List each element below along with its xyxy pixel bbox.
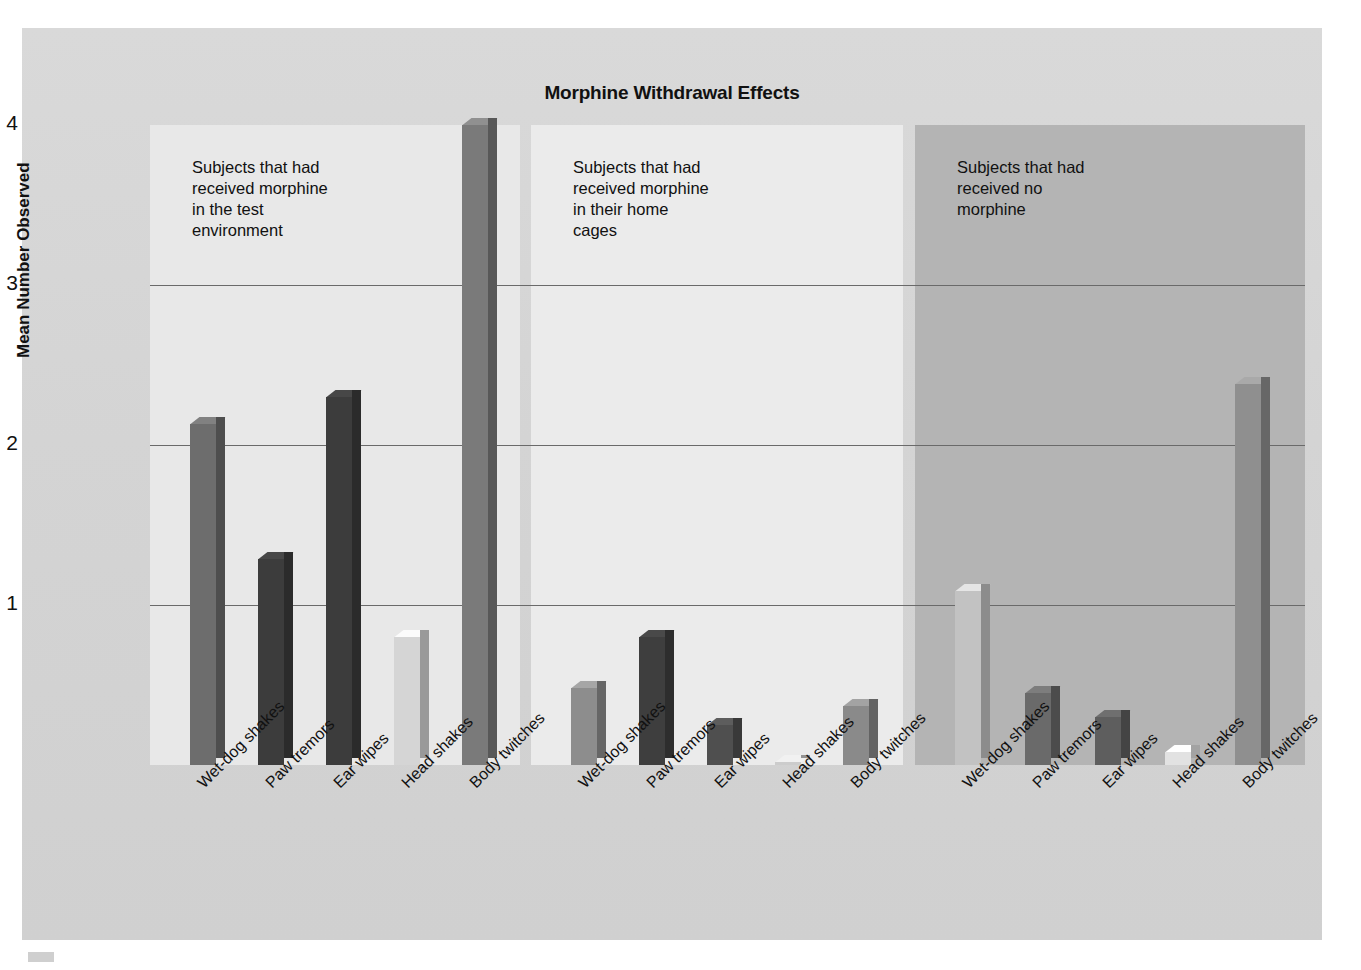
bar-side <box>665 630 674 758</box>
bar-side <box>597 681 606 758</box>
bar-side <box>1261 377 1270 758</box>
chart-title: Morphine Withdrawal Effects <box>22 82 1322 104</box>
bar <box>462 125 488 765</box>
y-axis-tick-label: 1 <box>0 591 18 615</box>
y-axis-tick-label: 4 <box>0 111 18 135</box>
bar-face <box>190 424 216 765</box>
bar-face <box>571 688 597 765</box>
bar <box>1235 384 1261 765</box>
scan-corner-mark <box>28 952 54 962</box>
bar <box>190 424 216 765</box>
bar-side <box>420 630 429 758</box>
bar <box>571 688 597 765</box>
bar <box>326 397 352 765</box>
gridline <box>150 605 1305 606</box>
figure-frame: Morphine Withdrawal Effects Mean Number … <box>22 28 1322 940</box>
bar-side <box>981 584 990 758</box>
plot-area: 1234 Subjects that had received morphine… <box>150 125 1305 765</box>
bar-face <box>394 637 420 765</box>
panel-note-2: Subjects that had received morphine in t… <box>573 157 709 241</box>
bar-side <box>352 390 361 758</box>
gridline <box>150 445 1305 446</box>
bar-face <box>955 591 981 765</box>
bar <box>394 637 420 765</box>
bar-side <box>284 552 293 758</box>
gridline <box>150 285 1305 286</box>
bar-side <box>216 417 225 758</box>
y-axis-title: Mean Number Observed <box>14 162 34 358</box>
panel-note-3: Subjects that had received no morphine <box>957 157 1085 220</box>
bar-face <box>326 397 352 765</box>
panel-note-1: Subjects that had received morphine in t… <box>192 157 328 241</box>
bar <box>955 591 981 765</box>
chart-page: Morphine Withdrawal Effects Mean Number … <box>0 0 1361 970</box>
bar-side <box>1051 686 1060 758</box>
bar-face <box>1235 384 1261 765</box>
bar-face <box>462 125 488 765</box>
y-axis-tick-label: 2 <box>0 431 18 455</box>
y-axis-tick-label: 3 <box>0 271 18 295</box>
bar-side <box>488 118 497 758</box>
